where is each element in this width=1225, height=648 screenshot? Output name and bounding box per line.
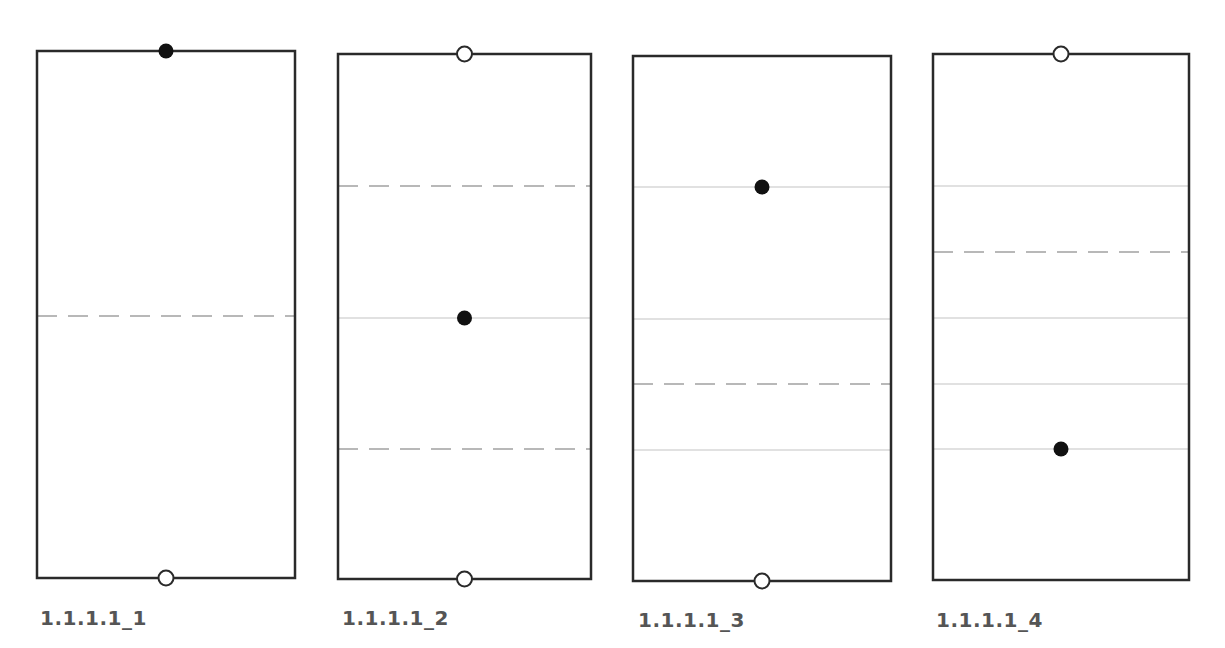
panel-label-1: 1.1.1.1_1 (40, 606, 147, 630)
filled-dot-icon (159, 44, 174, 59)
hollow-circle-icon (1054, 47, 1069, 62)
panel-1 (37, 44, 295, 586)
panel-frame (933, 54, 1189, 580)
hollow-circle-icon (457, 572, 472, 587)
panel-label-2: 1.1.1.1_2 (342, 606, 449, 630)
filled-dot-icon (457, 311, 472, 326)
hollow-circle-icon (755, 574, 770, 589)
panel-frame (37, 51, 295, 578)
diagram-canvas (0, 0, 1225, 648)
panel-label-3: 1.1.1.1_3 (638, 608, 745, 632)
panel-2 (338, 47, 591, 587)
panel-3 (633, 56, 891, 589)
hollow-circle-icon (457, 47, 472, 62)
filled-dot-icon (755, 180, 770, 195)
panel-label-4: 1.1.1.1_4 (936, 608, 1043, 632)
hollow-circle-icon (159, 571, 174, 586)
filled-dot-icon (1054, 442, 1069, 457)
panel-4 (933, 47, 1189, 581)
